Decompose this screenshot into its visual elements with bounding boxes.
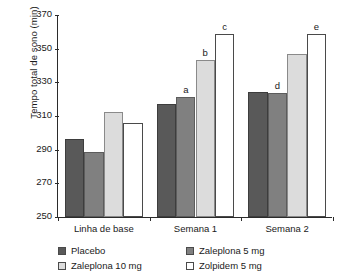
y-axis-tick-label: 370 [36, 8, 52, 19]
bar [84, 152, 103, 217]
legend-swatch-icon [186, 262, 194, 270]
significance-label: e [314, 21, 319, 32]
x-axis-category-label: Linha de base [74, 223, 134, 234]
legend-label: Zaleplona 10 mg [71, 260, 142, 271]
bar [65, 139, 84, 217]
legend-item: Zaleplona 5 mg [186, 245, 320, 256]
bar [215, 34, 234, 217]
y-axis-tick-mark [55, 15, 59, 16]
y-axis-tick-label: 290 [36, 143, 52, 154]
y-axis-tick-label: 270 [36, 176, 52, 187]
x-axis-tick-mark [241, 217, 242, 221]
legend-swatch-icon [58, 247, 66, 255]
x-axis-tick-mark [333, 217, 334, 221]
legend-item: Zaleplona 10 mg [58, 260, 186, 271]
significance-label: b [203, 47, 208, 58]
x-axis-tick-mark [150, 217, 151, 221]
y-axis-tick-label: 310 [36, 109, 52, 120]
bar [268, 93, 287, 217]
y-axis-tick-mark [55, 116, 59, 117]
legend-item: Placebo [58, 245, 186, 256]
bar [157, 104, 176, 217]
y-axis-tick-label: 330 [36, 75, 52, 86]
x-axis-category-label: Semana 1 [174, 223, 217, 234]
x-axis-category-label: Semana 2 [266, 223, 309, 234]
bar [196, 60, 215, 217]
bar [307, 34, 326, 217]
y-axis-tick-mark [55, 183, 59, 184]
y-axis-tick-label: 350 [36, 42, 52, 53]
significance-label: a [183, 84, 188, 95]
y-axis-tick-label: 250 [36, 210, 52, 221]
bar [287, 54, 306, 217]
legend-label: Zaleplona 5 mg [199, 245, 264, 256]
legend-label: Zolpidem 5 mg [199, 260, 262, 271]
legend-swatch-icon [58, 262, 66, 270]
significance-label: d [275, 80, 280, 91]
legend-swatch-icon [186, 247, 194, 255]
legend-item: Zolpidem 5 mg [186, 260, 320, 271]
y-axis-tick-mark [55, 82, 59, 83]
plot-area: 250270290310330350370 abcde Linha de bas… [57, 16, 332, 218]
legend-label: Placebo [71, 245, 105, 256]
bar [104, 112, 123, 217]
bar [176, 97, 195, 217]
y-axis-tick-mark [55, 150, 59, 151]
significance-label: c [222, 21, 227, 32]
y-axis-tick-mark [55, 49, 59, 50]
bar [123, 123, 142, 217]
x-axis-tick-mark [58, 217, 59, 221]
bar [248, 92, 267, 217]
chart-legend: PlaceboZaleplona 5 mgZaleplona 10 mgZolp… [58, 243, 320, 273]
bar-chart-figure: Tempo total de sono (min) 25027029031033… [0, 0, 338, 280]
